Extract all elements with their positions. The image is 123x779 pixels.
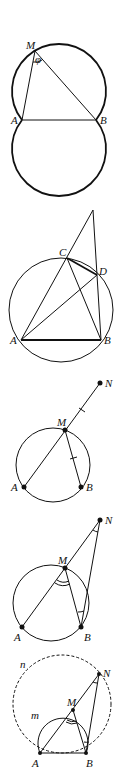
point-m [63,428,68,433]
lower-arc [12,120,106,196]
label-b: B [100,114,107,126]
circle [16,428,90,502]
label-c: C [59,246,67,258]
label-a: A [9,334,17,346]
point-n [97,672,101,676]
figure-1: M φ A B [10,39,107,196]
point-b [84,751,88,755]
label-m: M [56,416,67,428]
angle-amb-arc-1 [57,580,69,582]
point-a [22,485,27,490]
segment-cd [67,258,97,275]
label-n-circle: n [20,658,26,670]
label-a: A [10,481,18,493]
label-b: B [84,631,91,643]
label-b: B [86,481,93,493]
label-a: A [10,114,18,126]
segment-mb [35,51,96,120]
label-b: B [104,334,111,346]
figure-2: C D A B [9,210,113,362]
point-m [71,708,75,712]
circle [13,565,89,641]
label-n: N [104,514,113,526]
label-m: M [57,554,68,566]
point-n [98,381,103,386]
angle-n-arc [93,530,98,532]
segment-mb [73,710,86,753]
label-n: N [102,667,111,679]
label-a: A [31,757,39,769]
line-ac-extended [21,210,93,340]
circle-n-dashed [13,655,111,753]
label-b: B [86,757,93,769]
figure-4: N M A B [13,514,113,643]
label-a: A [13,631,21,643]
point-n [98,518,103,523]
angle-n-arc [93,682,97,683]
point-b [79,485,84,490]
point-b [79,625,84,630]
segment-cb [67,258,101,340]
label-m: M [66,696,77,708]
point-a [20,625,25,630]
figure-5: n m N M A B [13,655,111,769]
segment-nb [86,674,99,753]
segment-ma [22,51,35,120]
angle-b-arc [78,611,84,612]
point-m [63,566,68,571]
label-m-arc: m [31,709,39,721]
label-d: D [98,265,107,277]
point-a [38,751,42,755]
segment-ad [21,275,97,340]
angle-m-arc-2 [66,722,77,724]
label-m: M [25,39,36,51]
angle-amb-arc-2 [55,583,70,586]
line-an [40,674,99,753]
label-n: N [104,377,113,389]
label-phi: φ [35,53,41,65]
upper-arc [12,44,106,120]
figure-3: N M A B [10,377,113,502]
line-an [24,383,100,487]
geometry-figures: M φ A B C D A B N M A B [0,0,123,779]
